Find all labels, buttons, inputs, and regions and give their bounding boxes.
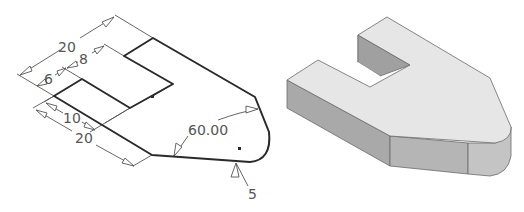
dim-label-slot-width: 10 — [63, 110, 81, 126]
solid-front-face — [390, 136, 468, 174]
dim-label-lip-width: 6 — [44, 71, 53, 87]
arrowhead-icon — [122, 158, 134, 166]
drawing-canvas: 20 8 6 10 — [0, 0, 524, 212]
dim-label-overall-length: 20 — [58, 39, 76, 55]
dimension-lip-width[interactable]: 6 — [37, 68, 66, 87]
arrowhead-icon — [36, 110, 47, 118]
dim-label-slot-depth: 8 — [79, 51, 88, 67]
sketch-point[interactable] — [151, 95, 154, 98]
dimension-lower-length[interactable]: 20 — [36, 110, 134, 166]
arrowhead-icon — [67, 61, 78, 68]
arc-center-point[interactable] — [238, 147, 241, 150]
dimension-taper-angle[interactable]: 60.00 — [174, 106, 258, 156]
arrowhead-icon — [246, 106, 258, 113]
arrowhead-icon — [57, 68, 66, 76]
dim-label-taper-angle: 60.00 — [188, 122, 228, 138]
arrowhead-icon — [20, 66, 32, 75]
dim-label-fillet-radius: 5 — [248, 186, 257, 202]
arrowhead-icon — [174, 143, 182, 156]
arrowhead-icon — [102, 17, 114, 27]
arrowhead-icon — [84, 122, 95, 130]
arrowhead-icon — [94, 46, 104, 54]
dimension-fillet-radius[interactable]: 5 — [231, 163, 257, 202]
arrowhead-icon — [46, 103, 57, 111]
sketch-view: 20 8 6 10 — [17, 15, 269, 202]
dim-label-lower-length: 20 — [75, 130, 93, 146]
dimension-overall-length[interactable]: 20 — [20, 17, 114, 75]
solid-view — [287, 17, 511, 176]
arrowhead-icon — [231, 163, 239, 177]
